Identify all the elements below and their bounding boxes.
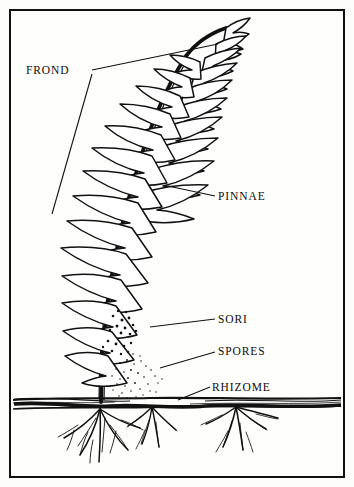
roots <box>58 407 278 463</box>
figure-canvas: FROND PINNAE SORI SPORES RHIZOME <box>0 0 354 487</box>
label-rhizome: RHIZOME <box>212 381 271 393</box>
label-sori: SORI <box>218 313 248 325</box>
label-spores: SPORES <box>218 345 266 357</box>
pinnae <box>61 18 250 386</box>
label-pinnae: PINNAE <box>218 190 266 202</box>
label-frond: FROND <box>26 64 69 76</box>
